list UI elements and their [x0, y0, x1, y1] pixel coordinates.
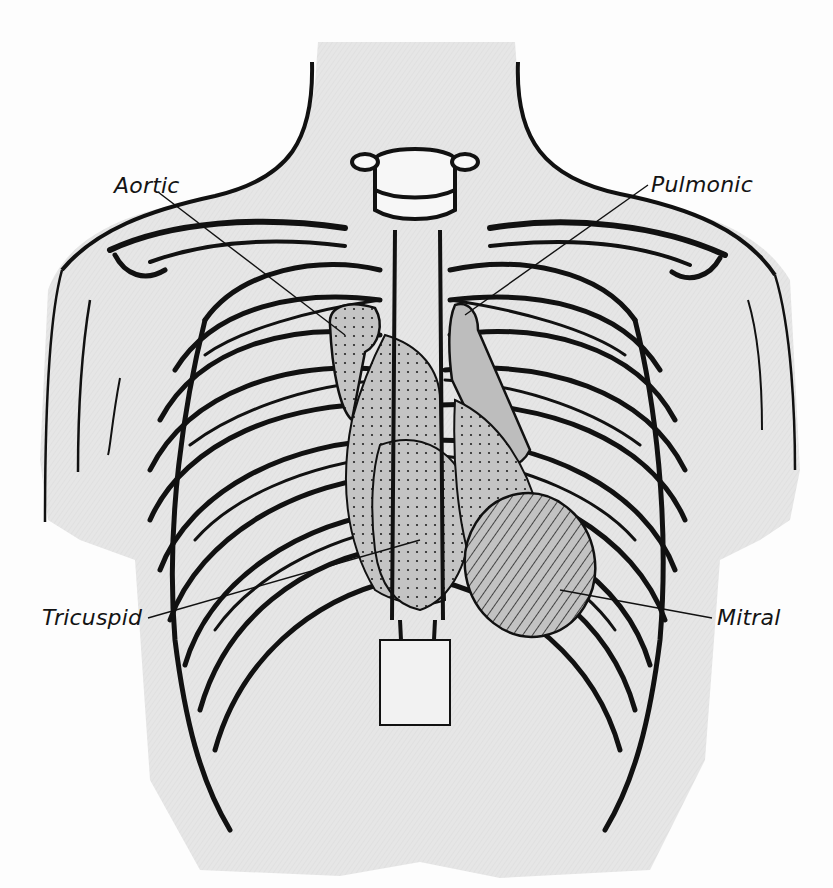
label-tricuspid: Tricuspid [42, 605, 142, 630]
anatomical-figure: Aortic Pulmonic Tricuspid Mitral [0, 0, 833, 888]
chest-illustration [0, 0, 833, 888]
label-mitral: Mitral [717, 605, 781, 630]
label-pulmonic: Pulmonic [651, 172, 753, 197]
label-aortic: Aortic [114, 173, 180, 198]
